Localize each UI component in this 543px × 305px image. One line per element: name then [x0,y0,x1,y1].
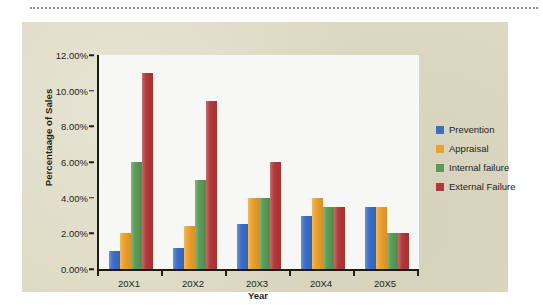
legend-swatch-icon [436,183,444,191]
legend-item-external-failure[interactable]: External Failure [436,177,526,196]
y-tick-label: 0.00% [61,264,88,275]
bar-appraisal-20x2[interactable] [184,226,195,269]
x-tick-mark [417,271,419,276]
bar-internal-failure-20x4[interactable] [323,207,334,269]
bar-external-failure-20x4[interactable] [334,207,345,269]
chart-legend: PreventionAppraisalInternal failureExter… [436,120,526,196]
x-tick-label-20x4: 20X4 [310,278,332,289]
bar-external-failure-20x5[interactable] [398,233,409,269]
legend-label: Prevention [449,124,494,135]
bar-prevention-20x5[interactable] [365,207,376,269]
x-axis-title: Year [97,290,419,301]
bar-internal-failure-20x1[interactable] [131,162,142,269]
y-tick-label: 8.00% [61,121,88,132]
x-tick-mark [353,271,355,276]
legend-item-appraisal[interactable]: Appraisal [436,139,526,158]
bar-external-failure-20x3[interactable] [270,162,281,269]
bar-external-failure-20x1[interactable] [142,73,153,269]
legend-swatch-icon [436,164,444,172]
y-tick-label: 2.00% [61,228,88,239]
bar-internal-failure-20x5[interactable] [387,233,398,269]
y-tick-mark [89,54,94,56]
bar-appraisal-20x5[interactable] [376,207,387,269]
legend-label: Internal failure [449,162,509,173]
y-tick-mark [89,197,94,199]
bar-group-20x2 [173,55,217,269]
legend-item-prevention[interactable]: Prevention [436,120,526,139]
x-tick-mark [97,271,99,276]
legend-swatch-icon [436,126,444,134]
bar-appraisal-20x3[interactable] [248,198,259,269]
x-tick-mark [225,271,227,276]
bar-appraisal-20x4[interactable] [312,198,323,269]
x-tick-mark [161,271,163,276]
x-tick-label-20x1: 20X1 [118,278,140,289]
y-axis-ticks: 0.00%2.00%4.00%6.00%8.00%10.00%12.00% [44,55,94,269]
bar-prevention-20x1[interactable] [109,251,120,269]
y-tick-mark [89,233,94,235]
y-tick-mark [89,90,94,92]
bar-group-20x1 [109,55,153,269]
x-tick-label-20x3: 20X3 [246,278,268,289]
y-tick-mark [89,126,94,128]
bar-group-20x5 [365,55,409,269]
bar-prevention-20x2[interactable] [173,248,184,269]
bar-internal-failure-20x3[interactable] [259,198,270,269]
legend-label: External Failure [449,181,516,192]
y-tick-mark [89,161,94,163]
y-tick-label: 12.00% [56,50,88,61]
bar-external-failure-20x2[interactable] [206,101,217,269]
x-tick-mark [289,271,291,276]
top-dotted-divider [30,7,538,9]
x-tick-label-20x5: 20X5 [374,278,396,289]
legend-item-internal-failure[interactable]: Internal failure [436,158,526,177]
chart-card: Percentaage of Sales 0.00%2.00%4.00%6.00… [22,22,508,292]
y-tick-mark [89,268,94,270]
x-tick-label-20x2: 20X2 [182,278,204,289]
plot-area [97,55,419,271]
legend-swatch-icon [436,145,444,153]
bar-internal-failure-20x2[interactable] [195,180,206,269]
legend-label: Appraisal [449,143,489,154]
bar-group-20x3 [237,55,281,269]
y-tick-label: 6.00% [61,157,88,168]
y-tick-label: 10.00% [56,85,88,96]
bar-appraisal-20x1[interactable] [120,233,131,269]
bar-group-20x4 [301,55,345,269]
y-tick-label: 4.00% [61,192,88,203]
bar-prevention-20x3[interactable] [237,224,248,269]
bars-layer [99,55,419,269]
x-axis-ticks: 20X120X220X320X420X5 [97,271,419,291]
bar-prevention-20x4[interactable] [301,216,312,270]
